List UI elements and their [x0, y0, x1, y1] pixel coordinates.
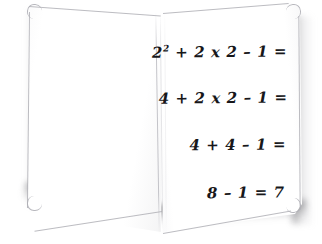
math-step-3: 4 + 4 – 1 = [190, 137, 287, 153]
math-step-4: 8 – 1 = 7 [207, 185, 285, 201]
math-steps: 22 + 2 x 2 – 1 = 4 + 2 x 2 – 1 = 4 + 4 –… [161, 29, 292, 211]
math-step-1-rest: + 2 x 2 – 1 = [169, 42, 287, 61]
math-step-1-base: 2 [152, 44, 163, 62]
math-step-1: 22 + 2 x 2 – 1 = [152, 43, 287, 60]
math-step-2: 4 + 2 x 2 – 1 = [159, 90, 288, 106]
page-corner-bottom-left [27, 196, 42, 211]
notebook-left-page [0, 0, 166, 244]
notebook-scene: 22 + 2 x 2 – 1 = 4 + 2 x 2 – 1 = 4 + 4 –… [0, 0, 322, 244]
